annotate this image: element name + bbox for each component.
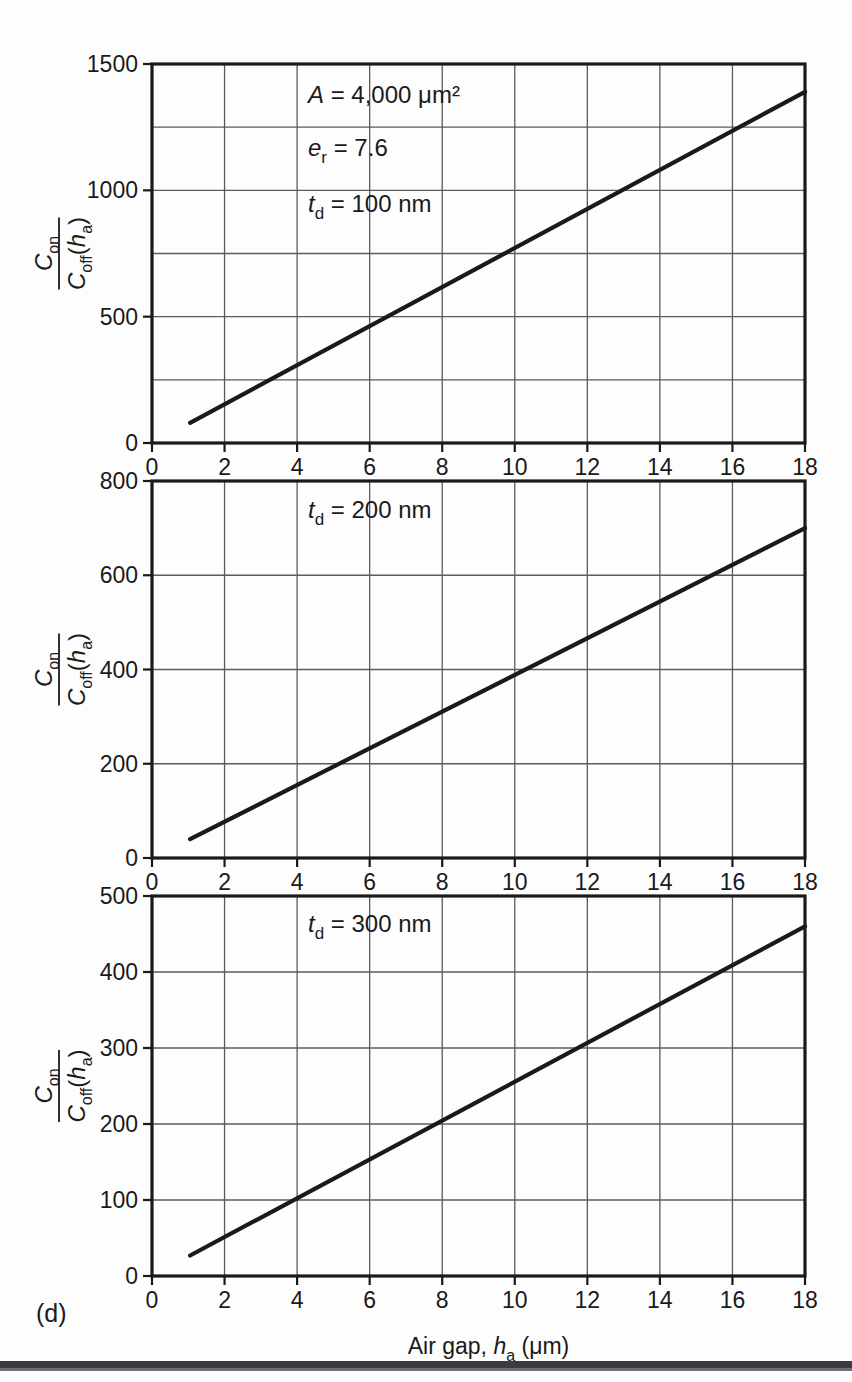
x-axis-title: Air gap, ha (μm): [408, 1333, 569, 1364]
annotation: er = 7.6: [308, 134, 388, 167]
x-tick-label: 14: [647, 1287, 673, 1313]
annotation-equals: = 200 nm: [324, 496, 431, 523]
denominator-close-paren: ): [63, 217, 90, 225]
annotation-subscript: d: [315, 510, 324, 529]
x-tick-label: 0: [146, 1287, 159, 1313]
y-axis-label-numerator: Con: [30, 652, 62, 687]
denominator-close-paren: ): [63, 1049, 90, 1057]
annotation-equals: = 7.6: [327, 134, 388, 161]
y-axis-label: ConCoff(ha): [30, 633, 95, 706]
denominator-subscript: off: [78, 1087, 95, 1105]
denominator-open-paren: (: [63, 1080, 90, 1088]
denominator-symbol: C: [63, 1105, 90, 1123]
y-tick-label: 500: [100, 883, 138, 909]
y-axis-label: ConCoff(ha): [30, 1049, 95, 1122]
x-tick-label: 16: [720, 1287, 746, 1313]
figure-panel-tag: (d): [36, 1299, 67, 1327]
x-tick-label: 4: [291, 454, 304, 480]
denominator-subscript: off: [78, 671, 95, 689]
annotation-equals: = 4,000 μm²: [324, 81, 460, 108]
x-tick-label: 16: [720, 454, 746, 480]
x-tick-label: 10: [502, 454, 528, 480]
denominator-arg-subscript: a: [78, 641, 95, 650]
annotation-subscript: d: [315, 924, 324, 943]
figure-d: 050010001500024681012141618A = 4,000 μm²…: [0, 0, 852, 1382]
x-tick-label: 10: [502, 1287, 528, 1313]
x-tick-label: 0: [146, 454, 159, 480]
denominator-arg-symbol: h: [63, 234, 90, 247]
x-tick-label: 8: [436, 869, 449, 895]
denominator-open-paren: (: [63, 663, 90, 671]
x-tick-label: 8: [436, 1287, 449, 1313]
panel-1: 050010001500024681012141618A = 4,000 μm²…: [87, 51, 818, 480]
x-tick-label: 12: [575, 454, 601, 480]
x-tick-label: 2: [218, 454, 231, 480]
annotation: A = 4,000 μm²: [306, 81, 460, 108]
x-tick-label: 18: [792, 869, 818, 895]
denominator-arg-subscript: a: [78, 1057, 95, 1066]
denominator-arg-subscript: a: [78, 225, 95, 234]
denominator-arg-symbol: h: [63, 1066, 90, 1079]
denominator-subscript: off: [78, 255, 95, 273]
y-tick-label: 400: [100, 657, 138, 683]
y-tick-label: 0: [125, 845, 138, 871]
y-tick-label: 200: [100, 751, 138, 777]
y-tick-label: 1500: [87, 51, 138, 77]
x-tick-label: 4: [291, 869, 304, 895]
annotation-equals: = 300 nm: [324, 910, 431, 937]
y-axis-label-denominator: Coff(ha): [63, 633, 95, 706]
x-tick-label: 12: [575, 869, 601, 895]
y-tick-label: 600: [100, 562, 138, 588]
x-tick-label: 10: [502, 869, 528, 895]
x-tick-label: 18: [792, 454, 818, 480]
scan-edge-bar-soft: [0, 1368, 852, 1371]
panel-3: 0100200300400500024681012141618td = 300 …: [100, 883, 818, 1313]
y-tick-label: 500: [100, 304, 138, 330]
x-tick-label: 0: [146, 869, 159, 895]
x-tick-label: 2: [218, 1287, 231, 1313]
x-axis-title-units: (μm): [515, 1333, 569, 1359]
denominator-open-paren: (: [63, 247, 90, 255]
y-tick-label: 0: [125, 1263, 138, 1289]
x-tick-label: 18: [792, 1287, 818, 1313]
y-axis-label-denominator: Coff(ha): [63, 1049, 95, 1122]
annotation-variable: A: [306, 81, 324, 108]
y-tick-label: 400: [100, 959, 138, 985]
denominator-symbol: C: [63, 688, 90, 706]
numerator-symbol: C: [30, 1086, 57, 1104]
panel-2: 0200400600800024681012141618td = 200 nm: [100, 468, 818, 895]
x-tick-label: 14: [647, 869, 673, 895]
scan-edge-bar: [0, 1361, 852, 1368]
y-axis-label-denominator: Coff(ha): [63, 217, 95, 290]
x-tick-label: 8: [436, 454, 449, 480]
denominator-arg-symbol: h: [63, 650, 90, 663]
y-axis-label-numerator: Con: [30, 1068, 62, 1103]
annotation-subscript: d: [315, 204, 324, 223]
y-tick-label: 300: [100, 1035, 138, 1061]
numerator-symbol: C: [30, 669, 57, 687]
denominator-symbol: C: [63, 272, 90, 290]
y-axis-label: ConCoff(ha): [30, 217, 95, 290]
y-axis-label-numerator: Con: [30, 236, 62, 271]
y-tick-label: 800: [100, 468, 138, 494]
x-axis-title-variable: h: [493, 1333, 506, 1359]
data-line: [190, 92, 805, 423]
y-tick-label: 100: [100, 1187, 138, 1213]
annotation-equals: = 100 nm: [324, 190, 431, 217]
x-tick-label: 12: [575, 1287, 601, 1313]
x-tick-label: 6: [363, 869, 376, 895]
annotation-variable: e: [308, 134, 321, 161]
y-tick-label: 0: [125, 430, 138, 456]
x-axis-title-text: Air gap,: [408, 1333, 494, 1359]
x-tick-label: 4: [291, 1287, 304, 1313]
denominator-close-paren: ): [63, 633, 90, 641]
numerator-symbol: C: [30, 253, 57, 271]
plot-frame: [152, 896, 805, 1276]
chart-canvas: 050010001500024681012141618A = 4,000 μm²…: [0, 0, 852, 1382]
x-tick-label: 14: [647, 454, 673, 480]
x-tick-label: 6: [363, 1287, 376, 1313]
x-tick-label: 6: [363, 454, 376, 480]
x-tick-label: 16: [720, 869, 746, 895]
y-tick-label: 1000: [87, 177, 138, 203]
y-tick-label: 200: [100, 1111, 138, 1137]
